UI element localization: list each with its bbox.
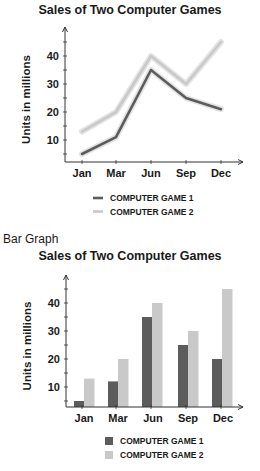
x-tick-label: Jan	[75, 412, 94, 424]
bar-game-1-sep	[178, 345, 189, 407]
bar-game-1-mar	[108, 381, 119, 407]
y-tick-label: 10	[48, 381, 60, 393]
legend-swatch-game-1	[105, 437, 113, 445]
legend-label-game-1: COMPUTER GAME 1	[120, 436, 204, 446]
x-tick-label: Jun	[143, 412, 163, 424]
x-tick-label: Mar	[108, 412, 128, 424]
y-tick-label: 40	[48, 297, 60, 309]
y-tick-label: 20	[48, 353, 60, 365]
x-tick-label: Dec	[213, 412, 233, 424]
bar-chart: 10203040JanMarJunSepDecUnits in millions…	[0, 0, 260, 471]
bar-game-2-jun	[152, 303, 163, 407]
bar-game-2-dec	[222, 289, 233, 407]
bar-game-1-jan	[74, 401, 85, 407]
x-tick-label: Sep	[178, 412, 198, 424]
legend-label-game-2: COMPUTER GAME 2	[120, 450, 204, 460]
bar-game-2-sep	[188, 331, 199, 407]
bar-game-1-jun	[142, 317, 153, 407]
y-axis-label: Units in millions	[21, 302, 33, 391]
bar-game-1-dec	[212, 359, 223, 407]
bar-game-2-mar	[118, 359, 129, 407]
y-tick-label: 30	[48, 325, 60, 337]
legend-swatch-game-2	[105, 451, 113, 459]
bar-game-2-jan	[84, 379, 95, 407]
